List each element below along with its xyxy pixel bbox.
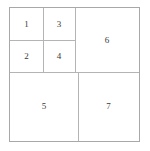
partition-cell-6[interactable]: 6 xyxy=(75,8,139,72)
diagram-canvas: 1 3 2 4 6 5 7 xyxy=(0,0,150,151)
cell-label: 2 xyxy=(24,52,29,61)
partition-cell-3[interactable]: 3 xyxy=(43,8,75,40)
cell-label: 1 xyxy=(24,20,29,29)
cell-label: 4 xyxy=(57,52,62,61)
cell-label: 3 xyxy=(57,20,62,29)
partition-cell-7[interactable]: 7 xyxy=(78,72,139,141)
cell-label: 6 xyxy=(105,36,110,45)
partition-cell-5[interactable]: 5 xyxy=(10,72,78,141)
packing-frame: 1 3 2 4 6 5 7 xyxy=(9,7,140,142)
partition-cell-4[interactable]: 4 xyxy=(43,40,75,72)
cell-label: 5 xyxy=(42,102,47,111)
partition-cell-2[interactable]: 2 xyxy=(10,40,43,72)
partition-cell-1[interactable]: 1 xyxy=(10,8,43,40)
cell-label: 7 xyxy=(106,102,111,111)
